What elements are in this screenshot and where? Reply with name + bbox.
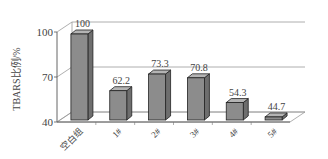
chart-canvas: 4070100TBARS比例/%100空白组62.21#73.32#70.83#… (0, 0, 328, 159)
tbars-bar-chart: 4070100TBARS比例/%100空白组62.21#73.32#70.83#… (0, 0, 328, 159)
bar-front (149, 74, 166, 120)
data-label-5: 44.7 (268, 101, 286, 112)
ytick-label-100: 100 (37, 26, 54, 38)
bar-3 (187, 74, 209, 120)
bar-front (187, 78, 204, 120)
ytick-label-70: 70 (42, 71, 54, 83)
category-label-2: 2# (149, 126, 163, 140)
bar-side (88, 30, 93, 120)
bar-side (204, 74, 209, 120)
category-label-1: 1# (110, 126, 124, 140)
bars (71, 30, 287, 120)
bar-front (71, 34, 88, 120)
gridline-depth-70 (57, 67, 72, 77)
bar-1 (110, 87, 132, 120)
ytick-label-40: 40 (42, 116, 54, 128)
bar-side (127, 87, 132, 120)
bar-2 (149, 70, 171, 120)
bar-0 (71, 30, 93, 120)
category-label-4: 4# (227, 126, 241, 140)
y-axis-label: TBARS比例/% (10, 47, 22, 110)
bar-front (265, 117, 282, 120)
bar-5 (265, 113, 287, 120)
data-label-2: 73.3 (151, 58, 169, 69)
bar-front (110, 91, 127, 120)
data-label-1: 62.2 (113, 75, 131, 86)
category-label-5: 5# (266, 126, 280, 140)
bar-4 (226, 99, 248, 120)
category-label-0: 空白组 (58, 126, 85, 153)
data-label-0: 100 (75, 18, 90, 29)
bar-front (226, 103, 243, 120)
data-label-3: 70.8 (190, 62, 208, 73)
category-label-3: 3# (188, 126, 202, 140)
labels: 4070100TBARS比例/%100空白组62.21#73.32#70.83#… (10, 18, 285, 153)
bar-side (166, 70, 171, 120)
gridline-depth-100 (57, 22, 72, 32)
data-label-4: 54.3 (229, 87, 247, 98)
